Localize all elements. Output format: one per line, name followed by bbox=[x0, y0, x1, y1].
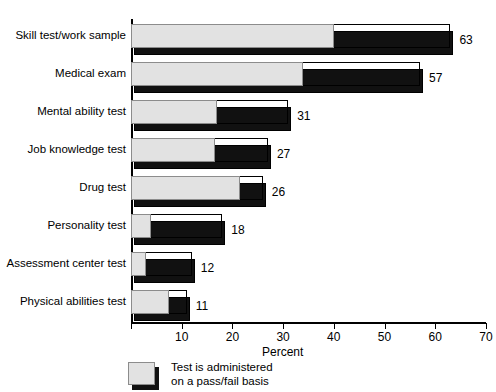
x-tick-30 bbox=[283, 323, 284, 329]
category-label: Assessment center test bbox=[6, 257, 126, 269]
bar-row: Assessment center test12 bbox=[0, 247, 496, 285]
x-tick-label-70: 70 bbox=[471, 330, 496, 344]
bar-value-label: 63 bbox=[459, 33, 472, 47]
bar-row: Skill test/work sample63 bbox=[0, 19, 496, 57]
legend: Test is administered on a pass/fail basi… bbox=[124, 358, 384, 392]
bar-passfail bbox=[131, 290, 169, 314]
category-label: Drug test bbox=[79, 181, 126, 193]
x-tick-label-50: 50 bbox=[370, 330, 400, 344]
x-tick-50 bbox=[385, 323, 386, 329]
bar-row: Job knowledge test27 bbox=[0, 133, 496, 171]
bar-row: Personality test18 bbox=[0, 209, 496, 247]
category-label: Physical abilities test bbox=[20, 295, 126, 307]
bar-passfail bbox=[131, 214, 151, 238]
bar-row: Drug test26 bbox=[0, 171, 496, 209]
bar-passfail bbox=[131, 176, 240, 200]
legend-swatch-passfail bbox=[128, 362, 155, 385]
bar-value-label: 18 bbox=[231, 223, 244, 237]
bar-value-label: 31 bbox=[297, 109, 310, 123]
category-label: Skill test/work sample bbox=[15, 29, 126, 41]
category-label: Medical exam bbox=[55, 67, 126, 79]
x-tick-label-10: 10 bbox=[167, 330, 197, 344]
x-tick-label-60: 60 bbox=[420, 330, 450, 344]
legend-label-line1: Test is administered bbox=[171, 360, 273, 374]
category-label: Mental ability test bbox=[37, 105, 126, 117]
category-label: Job knowledge test bbox=[28, 143, 126, 155]
bar-value-label: 11 bbox=[196, 299, 208, 313]
x-tick-60 bbox=[435, 323, 436, 329]
bar-passfail bbox=[131, 252, 146, 276]
bar-chart: 10203040506070 Skill test/work sample63M… bbox=[0, 0, 496, 392]
bar-value-label: 27 bbox=[277, 147, 290, 161]
x-tick-label-40: 40 bbox=[319, 330, 349, 344]
x-tick-40 bbox=[334, 323, 335, 329]
bar-value-label: 26 bbox=[272, 185, 285, 199]
bar-row: Physical abilities test11 bbox=[0, 285, 496, 323]
bar-passfail bbox=[131, 100, 217, 124]
legend-label-line2: on a pass/fail basis bbox=[171, 374, 273, 388]
x-tick-0 bbox=[131, 323, 132, 329]
bar-value-label: 12 bbox=[201, 261, 214, 275]
x-tick-20 bbox=[232, 323, 233, 329]
bar-row: Mental ability test31 bbox=[0, 95, 496, 133]
x-tick-70 bbox=[486, 323, 487, 329]
bar-value-label: 57 bbox=[429, 71, 442, 85]
bar-passfail bbox=[131, 138, 215, 162]
category-label: Personality test bbox=[47, 219, 126, 231]
bar-passfail bbox=[131, 62, 303, 86]
x-tick-10 bbox=[182, 323, 183, 329]
x-tick-label-20: 20 bbox=[217, 330, 247, 344]
x-tick-label-30: 30 bbox=[268, 330, 298, 344]
x-axis-title: Percent bbox=[262, 345, 303, 359]
bar-row: Medical exam57 bbox=[0, 57, 496, 95]
legend-label: Test is administered on a pass/fail basi… bbox=[171, 360, 273, 388]
bar-passfail bbox=[131, 24, 334, 48]
